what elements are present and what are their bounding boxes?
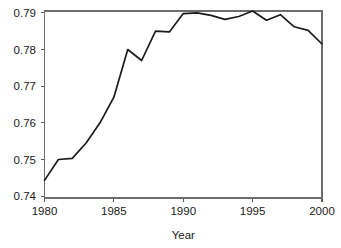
x-tick-label: 2000 <box>309 205 335 217</box>
x-tick-label: 1990 <box>170 205 196 217</box>
y-tick-label: 0.77 <box>14 80 36 92</box>
y-tick-label: 0.75 <box>14 154 36 166</box>
y-tick-label: 0.76 <box>14 117 36 129</box>
x-tick-label: 1995 <box>240 205 266 217</box>
x-tick-label: 1980 <box>32 205 58 217</box>
y-tick-label: 0.79 <box>14 7 36 19</box>
y-tick-label: 0.74 <box>14 190 37 202</box>
chart-figure: 0.740.750.760.770.780.79 198019851990199… <box>0 0 341 248</box>
y-tick-label: 0.78 <box>14 44 36 56</box>
x-axis-title: Year <box>172 229 195 241</box>
line-chart-plot: 0.740.750.760.770.780.79 198019851990199… <box>0 0 341 248</box>
x-tick-label: 1985 <box>101 205 127 217</box>
